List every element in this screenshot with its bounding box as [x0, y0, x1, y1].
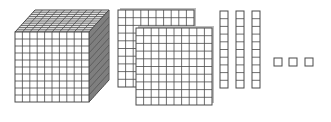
- hundred-flats: [118, 8, 214, 105]
- base-ten-blocks-diagram: [0, 0, 331, 122]
- unit-cubes: [274, 58, 313, 66]
- ten-rods: [220, 11, 260, 88]
- thousand-cube: [15, 10, 109, 102]
